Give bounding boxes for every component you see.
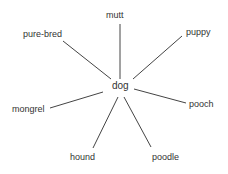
node-mutt: mutt [106,10,124,20]
connector-pooch [134,89,186,103]
node-hound: hound [70,152,95,162]
connector-hound [93,97,118,148]
connector-pure-bred [63,41,111,79]
node-mongrel: mongrel [12,104,45,114]
connector-mongrel [50,92,103,108]
node-poodle: poodle [152,152,179,162]
center-node-dog: dog [112,81,129,91]
node-pure-bred: pure-bred [23,29,62,39]
connector-poodle [124,97,151,147]
node-puppy: puppy [186,27,211,37]
connector-puppy [133,36,182,79]
word-web-diagram: dog mutt pure-bred puppy mongrel pooch h… [0,0,228,174]
node-pooch: pooch [189,99,214,109]
